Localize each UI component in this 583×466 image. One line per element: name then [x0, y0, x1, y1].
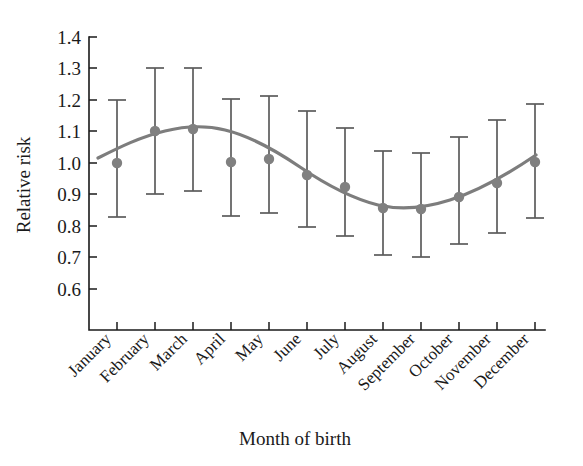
data-point-march — [188, 124, 198, 134]
x-axis-category-labels: January February March April May June Ju… — [64, 329, 533, 394]
y-tick-label-0-8: 0.8 — [57, 216, 81, 237]
x-axis-title: Month of birth — [239, 428, 351, 449]
data-point-may — [264, 154, 274, 164]
y-tick-label-1-4: 1.4 — [57, 27, 81, 48]
y-tick-label-1-1: 1.1 — [57, 121, 81, 142]
y-axis-tick-labels: 1.4 1.3 1.2 1.1 1.0 0.9 0.8 0.7 0.6 — [57, 27, 81, 300]
y-tick-label-1-0: 1.0 — [57, 153, 81, 174]
error-bars — [108, 68, 544, 257]
y-tick-label-1-3: 1.3 — [57, 58, 81, 79]
data-point-september — [416, 204, 426, 214]
x-label-april: April — [190, 329, 229, 368]
y-tick-label-1-2: 1.2 — [57, 90, 81, 111]
x-label-march: March — [146, 329, 191, 374]
y-axis-ticks — [89, 37, 97, 289]
data-point-july — [340, 182, 350, 192]
y-tick-label-0-9: 0.9 — [57, 184, 81, 205]
data-point-markers — [112, 124, 540, 214]
x-axis-ticks — [117, 322, 535, 330]
chart-figure: 1.4 1.3 1.2 1.1 1.0 0.9 0.8 0.7 0.6 Rela… — [0, 0, 583, 466]
data-point-january — [112, 158, 122, 168]
x-label-june: June — [269, 329, 304, 364]
chart-axes — [89, 37, 545, 330]
y-tick-label-0-6: 0.6 — [57, 279, 81, 300]
y-tick-label-0-7: 0.7 — [57, 247, 81, 268]
data-point-november — [492, 178, 502, 188]
data-point-june — [302, 170, 312, 180]
data-point-august — [378, 203, 388, 213]
fitted-curve — [98, 127, 536, 208]
error-bar-october — [450, 137, 468, 244]
data-point-april — [226, 157, 236, 167]
y-axis-title: Relative risk — [13, 136, 34, 233]
x-label-may: May — [231, 329, 267, 365]
relative-risk-by-month-of-birth-chart: 1.4 1.3 1.2 1.1 1.0 0.9 0.8 0.7 0.6 Rela… — [0, 0, 583, 466]
data-point-october — [454, 192, 464, 202]
data-point-february — [150, 126, 160, 136]
data-point-december — [530, 157, 540, 167]
